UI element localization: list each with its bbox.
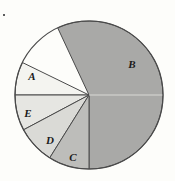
pie-chart-figure: B A E D C — [0, 0, 175, 181]
pie-chart-canvas — [0, 0, 175, 181]
scan-speck-artifact — [3, 14, 5, 16]
